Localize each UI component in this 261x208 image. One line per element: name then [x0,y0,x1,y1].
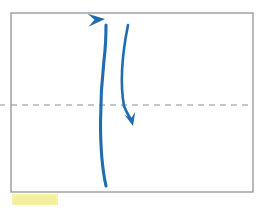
yellow-highlighter-mark [12,194,58,205]
diagram-canvas [0,0,261,208]
figure-svg [0,0,261,208]
diagram-frame [11,13,253,192]
